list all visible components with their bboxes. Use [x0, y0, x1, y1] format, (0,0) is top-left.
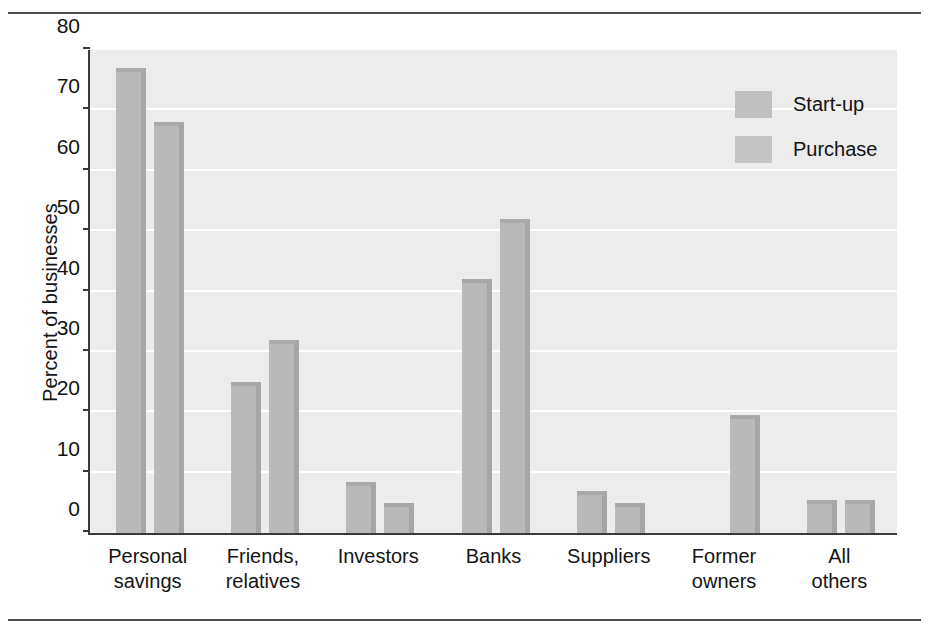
y-axis-tick-label: 20: [57, 376, 80, 400]
bar-purchase-banks: [500, 219, 530, 533]
top-divider-rule: [8, 12, 921, 14]
y-axis-tick-label: 0: [68, 497, 80, 521]
y-axis-tick-label: 70: [57, 74, 80, 98]
gridline: [90, 48, 897, 50]
y-axis-tick-label: 80: [57, 14, 80, 38]
bar-purchase-investors: [384, 503, 414, 533]
y-axis-tick-mark: [83, 470, 90, 472]
y-axis-tick-mark: [83, 289, 90, 291]
gridline: [90, 350, 897, 352]
bar-start-up-all-others: [807, 500, 837, 533]
y-axis-tick-mark: [83, 47, 90, 49]
y-axis-tick-mark: [83, 168, 90, 170]
y-axis-tick-label: 30: [57, 316, 80, 340]
x-axis-label: All others: [812, 544, 868, 594]
y-axis-tick-label: 50: [57, 195, 80, 219]
legend-swatch-purchase-icon: [735, 136, 772, 163]
y-axis-tick-mark: [83, 228, 90, 230]
y-axis-tick-mark: [83, 349, 90, 351]
bar-purchase-all-others: [845, 500, 875, 533]
gridline: [90, 290, 897, 292]
gridline: [90, 229, 897, 231]
x-axis-label: Personal savings: [108, 544, 187, 594]
x-axis-label: Banks: [466, 544, 522, 569]
bar-purchase-suppliers: [615, 503, 645, 533]
bar-purchase-former-owners: [730, 415, 760, 533]
x-axis-label: Investors: [338, 544, 419, 569]
legend-label-start-up: Start-up: [793, 93, 864, 116]
bar-start-up-investors: [346, 482, 376, 533]
gridline: [90, 471, 897, 473]
legend: Start-up Purchase: [735, 82, 878, 172]
bar-purchase-friends-relatives: [269, 340, 299, 533]
bar-start-up-personal-savings: [116, 68, 146, 533]
y-axis-tick-mark: [83, 409, 90, 411]
legend-label-purchase: Purchase: [793, 138, 878, 161]
legend-item-purchase: Purchase: [735, 127, 878, 172]
y-axis-tick-label: 60: [57, 135, 80, 159]
bar-start-up-friends-relatives: [231, 382, 261, 533]
y-axis-tick-mark: [83, 530, 90, 532]
legend-item-start-up: Start-up: [735, 82, 878, 127]
bar-chart-figure: Percent of businesses 01020304050607080 …: [0, 0, 929, 635]
bottom-divider-rule: [8, 619, 921, 621]
x-axis-label: Former owners: [692, 544, 756, 594]
y-axis-tick-label: 10: [57, 437, 80, 461]
bar-start-up-banks: [462, 279, 492, 533]
x-axis-label: Friends, relatives: [226, 544, 300, 594]
y-axis-tick-mark: [83, 107, 90, 109]
x-axis-label: Suppliers: [567, 544, 650, 569]
gridline: [90, 410, 897, 412]
bar-purchase-personal-savings: [154, 122, 184, 533]
y-axis-tick-label: 40: [57, 256, 80, 280]
legend-swatch-start-up-icon: [735, 91, 772, 118]
bar-start-up-suppliers: [577, 491, 607, 533]
